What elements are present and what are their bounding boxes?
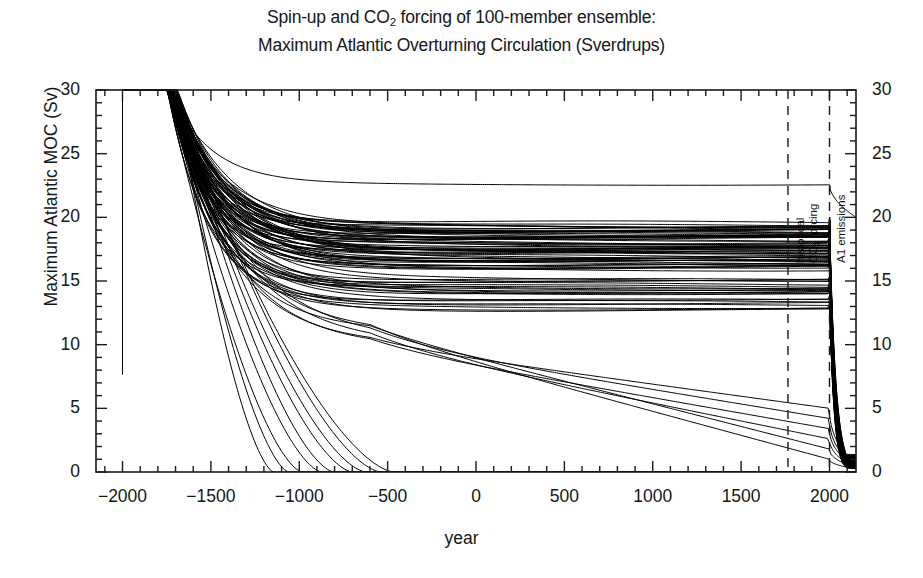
ensemble-curve xyxy=(123,90,856,460)
ensemble-curve xyxy=(123,90,856,463)
ensemble-curve xyxy=(123,90,856,464)
ensemble-curve xyxy=(123,90,856,463)
ensemble-curve xyxy=(123,90,856,464)
ensemble-curve xyxy=(123,90,856,456)
curves-group xyxy=(123,90,856,472)
ensemble-curve xyxy=(123,90,856,460)
plot-canvas xyxy=(0,0,923,578)
ensemble-curve xyxy=(123,90,856,464)
ensemble-curve xyxy=(123,90,856,463)
ensemble-curve xyxy=(123,90,856,462)
ensemble-curve xyxy=(123,90,856,461)
ensemble-curve xyxy=(123,90,856,458)
ensemble-curve xyxy=(123,90,856,462)
ensemble-curve xyxy=(123,90,856,455)
ensemble-curve xyxy=(123,90,856,465)
ensemble-curve xyxy=(123,90,856,467)
ensemble-curve xyxy=(123,90,856,464)
ensemble-curve xyxy=(123,90,856,458)
ensemble-curve xyxy=(123,90,856,458)
ensemble-curve xyxy=(123,90,856,464)
ensemble-curve xyxy=(123,90,856,459)
ensemble-curve xyxy=(123,90,856,461)
ensemble-curve xyxy=(123,90,856,463)
ensemble-curve xyxy=(123,90,856,464)
ensemble-curve xyxy=(123,90,856,457)
ensemble-curve xyxy=(123,90,856,461)
ensemble-curve xyxy=(123,90,856,456)
ensemble-curve xyxy=(123,90,856,456)
ensemble-curve xyxy=(123,90,856,458)
ensemble-curve xyxy=(123,90,856,464)
ensemble-curve xyxy=(123,90,856,458)
ensemble-curve xyxy=(123,90,856,462)
ensemble-curve xyxy=(123,90,856,464)
ensemble-curve xyxy=(123,90,856,454)
ensemble-curve xyxy=(123,90,856,458)
ensemble-curve xyxy=(123,90,856,455)
ensemble-curve xyxy=(123,90,856,460)
ensemble-curve xyxy=(123,90,856,459)
ensemble-curve xyxy=(123,90,856,462)
ensemble-curve xyxy=(123,90,856,464)
ensemble-curve xyxy=(123,90,856,464)
ensemble-curve xyxy=(123,90,856,457)
ensemble-curve xyxy=(123,90,856,464)
ensemble-curve xyxy=(123,90,856,461)
ensemble-curve xyxy=(123,90,856,456)
ensemble-curve xyxy=(123,90,856,463)
ensemble-curve xyxy=(123,90,856,456)
chart-figure: Spin-up and CO2 forcing of 100-member en… xyxy=(0,0,923,578)
ensemble-curve xyxy=(123,90,856,462)
ensemble-curve xyxy=(123,90,856,457)
ensemble-curve xyxy=(123,90,856,463)
ensemble-curve xyxy=(123,90,856,458)
ensemble-curve xyxy=(123,90,856,455)
ensemble-curve xyxy=(123,90,856,460)
ensemble-curve xyxy=(123,90,856,463)
